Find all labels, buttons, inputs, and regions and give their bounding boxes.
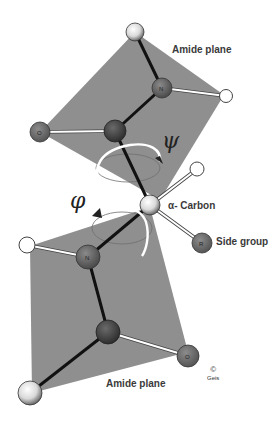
copyright-mark: © Geis (207, 366, 219, 382)
atom-alpha-carbon (140, 195, 160, 215)
copyright-signature: Geis (207, 374, 219, 382)
label-psi: ψ (162, 128, 179, 153)
label-side-group: Side group (216, 236, 268, 247)
atom-bottom-alpha-carbon (18, 381, 42, 405)
atom-top-O-letter: O (37, 130, 42, 136)
peptide-diagram: N O R N O (0, 0, 279, 433)
atom-top-alpha-carbon (126, 23, 144, 41)
label-amide-plane-top: Amide plane (172, 44, 231, 55)
atom-top-H (220, 90, 233, 103)
atom-top-C (104, 120, 126, 142)
atom-bottom-C (96, 320, 120, 344)
atom-bottom-O-letter: O (185, 354, 190, 360)
atom-bottom-N-letter: N (85, 255, 89, 261)
atom-alpha-H (190, 162, 204, 176)
label-amide-plane-bottom: Amide plane (106, 378, 165, 389)
atom-top-N-letter: N (159, 86, 163, 92)
label-phi: φ (70, 188, 85, 213)
copyright-symbol: © (207, 366, 219, 374)
amide-plane-bottom (30, 207, 188, 393)
label-alpha-carbon: α- Carbon (168, 200, 215, 211)
atom-bottom-H (19, 237, 35, 253)
atom-R-letter: R (199, 241, 204, 247)
